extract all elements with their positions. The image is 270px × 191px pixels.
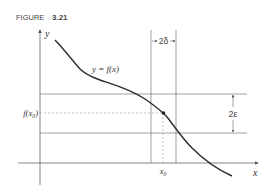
x0-label: x₀ [159,166,167,176]
x0-point [162,111,166,115]
epsilon-delta-diagram: FIGURE 3.21 y x 2δ 2ε f(x₀) x₀ y = f(x) [0,0,270,191]
y-axis-label: y [44,28,50,39]
x-axis-label: x [252,167,258,178]
epsilon-label: 2ε [228,109,237,119]
figure-number: 3.21 [52,13,68,22]
figure-label: FIGURE [16,13,44,22]
curve-label: y = f(x) [91,64,119,74]
fx0-label: f(x₀) [23,108,38,118]
function-curve [55,40,232,176]
delta-label: 2δ [159,36,169,46]
